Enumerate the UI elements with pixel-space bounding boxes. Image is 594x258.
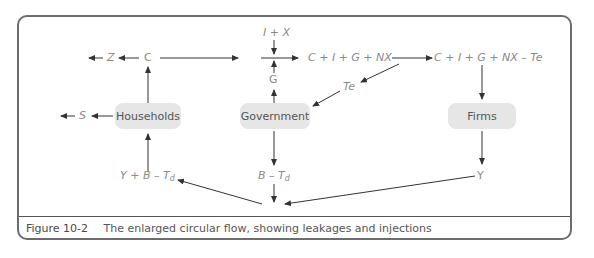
label-b-minus-td: B – Td xyxy=(258,170,290,183)
flow-arrows xyxy=(0,0,594,258)
label-te: Te xyxy=(343,81,355,92)
node-households: Households xyxy=(115,103,181,129)
figure-number: Figure 10-2 xyxy=(26,222,88,235)
label-b-minus-td-main: B – T xyxy=(258,169,285,182)
label-z: Z xyxy=(107,52,115,63)
caption-text: The enlarged circular flow, showing leak… xyxy=(104,222,432,235)
node-government: Government xyxy=(240,103,310,129)
label-net-of-taxes: C + I + G + NX – Te xyxy=(434,52,542,63)
label-g: G xyxy=(269,74,278,85)
label-aggregate-demand: C + I + G + NX xyxy=(308,52,392,63)
label-y: Y xyxy=(477,170,484,181)
figure-caption: Figure 10-2 The enlarged circular flow, … xyxy=(26,222,432,235)
label-y-plus-b-minus-td: Y + B – Td xyxy=(120,170,175,183)
label-b-minus-td-sub: d xyxy=(285,174,290,183)
label-c: C xyxy=(144,52,152,63)
label-y-plus-b-minus-td-sub: d xyxy=(170,174,175,183)
node-firms: Firms xyxy=(448,103,516,129)
caption-divider xyxy=(19,216,570,217)
label-y-plus-b-minus-td-main: Y + B – T xyxy=(120,169,170,182)
label-s: S xyxy=(79,110,86,121)
label-i-plus-x: I + X xyxy=(263,27,290,38)
